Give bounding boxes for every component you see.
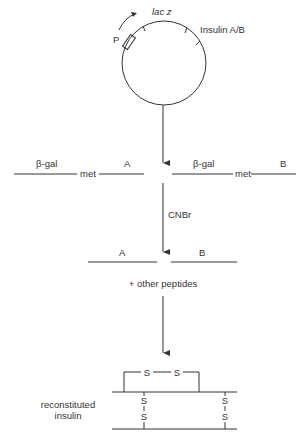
reconstituted-insulin: S S S S S S reconstituted insulin bbox=[41, 367, 237, 430]
plasmid-circle bbox=[122, 21, 206, 105]
other-peptides-label: + other peptides bbox=[129, 278, 198, 289]
insulin-label: insulin bbox=[55, 410, 82, 421]
promoter-label: P bbox=[113, 34, 119, 45]
fusion-protein-b: β-gal met B bbox=[172, 158, 296, 179]
sulfur-intra-2: S bbox=[174, 367, 180, 378]
sulfur-left-top: S bbox=[141, 395, 147, 406]
sulfur-left-bottom: S bbox=[141, 411, 147, 422]
sulfur-intra-1: S bbox=[144, 367, 150, 378]
cnbr-label: CNBr bbox=[168, 209, 191, 220]
lacz-label: lac z bbox=[152, 6, 172, 17]
sulfur-right-bottom: S bbox=[222, 411, 228, 422]
insert-label: Insulin A/B bbox=[200, 24, 245, 35]
transcription-arrowhead-icon bbox=[131, 12, 137, 17]
chain-b-label: B bbox=[280, 158, 286, 169]
plasmid: P lac z Insulin A/B bbox=[113, 6, 245, 105]
beta-gal-label-b: β-gal bbox=[193, 158, 214, 169]
transcription-arrow bbox=[119, 14, 134, 30]
met-label-b: met bbox=[235, 168, 251, 179]
chain-a-label: A bbox=[124, 158, 131, 169]
insert-end-tick bbox=[196, 41, 200, 45]
product-b-label: B bbox=[199, 247, 205, 258]
insert-start-tick bbox=[185, 28, 187, 33]
promoter-box bbox=[123, 35, 136, 50]
fusion-protein-a: β-gal met A bbox=[14, 158, 144, 179]
reconstituted-label: reconstituted bbox=[41, 399, 95, 410]
insulin-production-diagram: P lac z Insulin A/B β-gal met A β-gal me… bbox=[0, 0, 304, 442]
met-label-a: met bbox=[80, 168, 96, 179]
product-a-label: A bbox=[119, 247, 126, 258]
sulfur-right-top: S bbox=[222, 395, 228, 406]
beta-gal-label-a: β-gal bbox=[36, 158, 57, 169]
lacz-start-tick bbox=[143, 26, 145, 31]
